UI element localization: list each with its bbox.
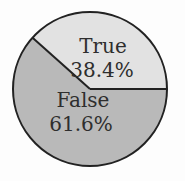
slice-false-name: False xyxy=(57,88,110,112)
pie-chart: True 38.4% False 61.6% xyxy=(0,0,185,181)
slice-true-name: True xyxy=(79,34,127,58)
slice-true-percent: 38.4% xyxy=(70,58,134,82)
slice-false-percent: 61.6% xyxy=(49,112,113,136)
slice-label-true: True 38.4% xyxy=(70,34,134,82)
slice-label-false: False 61.6% xyxy=(49,88,113,136)
